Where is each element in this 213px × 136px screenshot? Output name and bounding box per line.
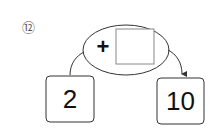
result-value: 10 [157,78,204,124]
problem-number: ⑫ [20,18,36,34]
answer-box-value[interactable] [116,29,154,64]
addition-diagram: ⑫ + 2 10 [0,0,213,136]
left-connector-arc [70,52,84,75]
right-arrow-arc [168,50,182,74]
plus-operator: + [93,35,113,59]
start-value: 2 [46,76,94,122]
